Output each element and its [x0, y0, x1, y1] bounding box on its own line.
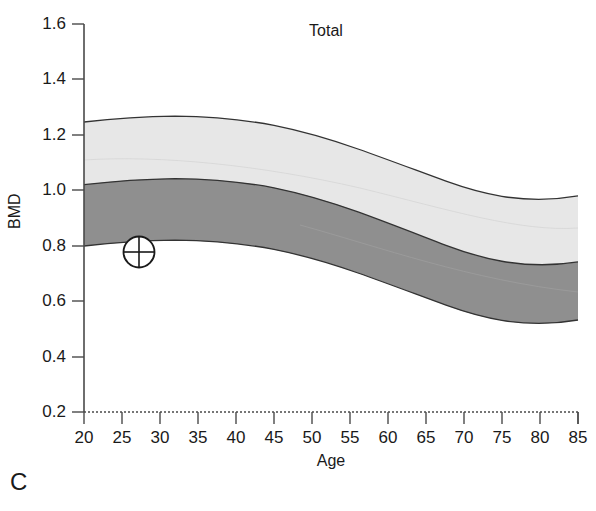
- y-axis-title: BMD: [6, 207, 24, 229]
- y-tick-label: 0.8: [16, 236, 66, 256]
- x-tick-label: 60: [379, 428, 398, 448]
- y-tick-label: 1.6: [16, 14, 66, 34]
- patient-data-point-marker[interactable]: [124, 237, 155, 268]
- x-axis-ticks: [84, 412, 578, 424]
- x-tick-label: 85: [569, 428, 588, 448]
- x-tick-label: 35: [189, 428, 208, 448]
- x-tick-label: 75: [493, 428, 512, 448]
- x-tick-label: 40: [227, 428, 246, 448]
- x-axis-title: Age: [317, 452, 345, 470]
- x-tick-label: 45: [265, 428, 284, 448]
- x-tick-label: 70: [455, 428, 474, 448]
- y-tick-label: 0.2: [16, 402, 66, 422]
- x-tick-label: 25: [113, 428, 132, 448]
- x-tick-label: 55: [341, 428, 360, 448]
- chart-title: Total: [309, 22, 343, 40]
- y-tick-label: 1.4: [16, 69, 66, 89]
- x-tick-label: 65: [417, 428, 436, 448]
- x-tick-label: 20: [75, 428, 94, 448]
- x-tick-label: 30: [151, 428, 170, 448]
- y-tick-label: 0.6: [16, 291, 66, 311]
- y-tick-label: 1.0: [16, 180, 66, 200]
- y-tick-label: 0.4: [16, 347, 66, 367]
- x-tick-label: 80: [531, 428, 550, 448]
- y-axis-ticks: [72, 24, 84, 412]
- panel-label: C: [10, 468, 27, 496]
- bmd-reference-chart-figure: Total BMD Age 1.6 1.4 1.2 1.0 0.8 0.6 0.…: [0, 0, 596, 511]
- y-tick-label: 1.2: [16, 125, 66, 145]
- x-tick-label: 50: [303, 428, 322, 448]
